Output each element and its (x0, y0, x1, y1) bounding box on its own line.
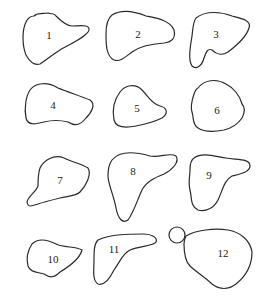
shape-9-outline (189, 155, 250, 211)
shape-11-outline (94, 234, 157, 284)
shape-3-label: 3 (213, 28, 219, 40)
shape-1-outline (23, 13, 89, 65)
shape-2-label: 2 (135, 28, 141, 40)
shape-12-label: 12 (218, 247, 229, 259)
shape-11-label: 11 (109, 243, 120, 255)
shape-8-label: 8 (130, 165, 136, 177)
shapes-diagram: 1 2 3 4 5 6 7 8 9 10 11 12 (0, 0, 263, 304)
shape-5-label: 5 (134, 102, 140, 114)
shape-7-label: 7 (57, 174, 63, 186)
shape-9-label: 9 (206, 169, 212, 181)
shape-3-outline (190, 13, 250, 68)
shape-10-label: 10 (48, 253, 59, 265)
shape-12-small-circle (169, 227, 185, 243)
shape-6-label: 6 (214, 104, 220, 116)
shape-4-label: 4 (50, 99, 56, 111)
shape-4-outline (25, 84, 93, 125)
shape-1-label: 1 (46, 29, 52, 41)
shape-8-outline (108, 153, 177, 222)
